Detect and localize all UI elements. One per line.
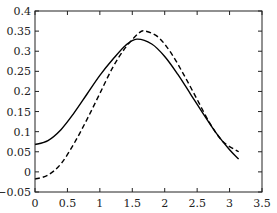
y-tick-label: 0.4 [14, 5, 32, 18]
y-tick-label: 0.05 [7, 146, 32, 159]
series-line-dashed [35, 31, 239, 179]
y-tick-label: 0.2 [14, 85, 32, 98]
plot-area [35, 31, 239, 179]
x-tick-label: 0.5 [59, 197, 77, 210]
x-tick-label: 1.5 [124, 197, 142, 210]
y-tick-label: 0.3 [14, 45, 32, 58]
x-tick-label: 3.5 [253, 197, 271, 210]
y-tick-label: 0.25 [7, 65, 32, 78]
x-tick-label: 0 [32, 197, 39, 210]
line-chart: 00.511.522.533.5 −0.0500.050.10.150.20.2… [0, 0, 277, 213]
y-axis: −0.0500.050.10.150.20.250.30.350.4 [0, 5, 262, 199]
x-tick-label: 2.5 [188, 197, 206, 210]
y-tick-label: 0.35 [7, 25, 32, 38]
y-tick-label: 0.1 [14, 126, 32, 139]
axes-frame [35, 11, 262, 192]
y-tick-label: 0 [24, 166, 31, 179]
series-line-solid [35, 39, 239, 159]
x-tick-label: 2 [161, 197, 168, 210]
x-tick-label: 3 [226, 197, 233, 210]
x-tick-label: 1 [96, 197, 103, 210]
y-tick-label: −0.05 [0, 186, 31, 199]
y-tick-label: 0.15 [7, 106, 32, 119]
x-axis: 00.511.522.533.5 [32, 11, 271, 210]
